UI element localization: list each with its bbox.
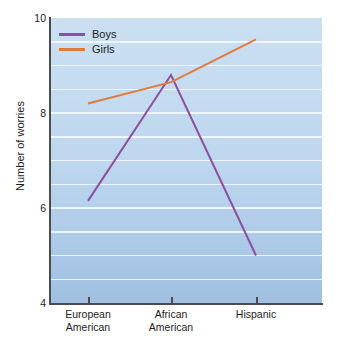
series-lines [51, 18, 322, 303]
x-axis-tick-label: Hispanic [208, 308, 304, 321]
x-axis-tick-label-line: African [123, 308, 219, 321]
x-axis-tick-mark [171, 297, 173, 304]
legend-label: Girls [92, 44, 115, 55]
y-axis-tick-label: 10 [20, 13, 46, 23]
plot-area [51, 18, 322, 303]
chart-figure: 46810 Number of worries EuropeanAmerican… [0, 0, 337, 345]
x-axis-tick-label: AfricanAmerican [123, 308, 219, 333]
y-axis-title: Number of worries [14, 61, 26, 231]
x-axis-line [49, 303, 323, 305]
legend-swatch-girls [59, 48, 85, 51]
x-axis-tick-label-line: American [40, 321, 136, 334]
series-line-boys [88, 75, 256, 256]
x-axis-tick-mark [256, 297, 258, 304]
legend-item-boys: Boys [59, 27, 151, 42]
chart-legend: BoysGirls [59, 27, 151, 57]
x-axis-tick-label-line: European [40, 308, 136, 321]
y-axis-tick-label: 4 [20, 298, 46, 308]
legend-label: Boys [92, 29, 116, 40]
x-axis-tick-label: EuropeanAmerican [40, 308, 136, 333]
x-axis-tick-label-line: Hispanic [208, 308, 304, 321]
legend-item-girls: Girls [59, 42, 151, 57]
legend-swatch-boys [59, 33, 85, 36]
x-axis-tick-label-line: American [123, 321, 219, 334]
x-axis-tick-mark [88, 297, 90, 304]
